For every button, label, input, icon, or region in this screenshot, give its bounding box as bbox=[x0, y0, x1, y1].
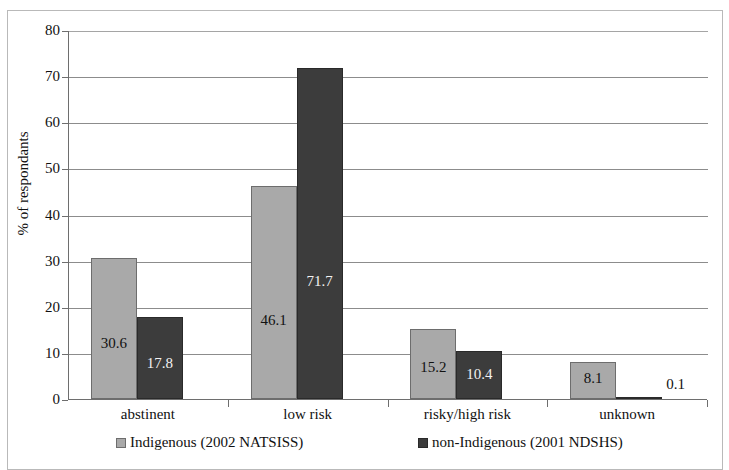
y-axis-tick-label: 60 bbox=[26, 114, 60, 131]
legend-entry[interactable]: non-Indigenous (2001 NDSHS) bbox=[418, 434, 623, 451]
y-axis-tick-label: 0 bbox=[26, 391, 60, 408]
legend-swatch-icon bbox=[116, 438, 126, 448]
x-axis-category-label: low risk bbox=[228, 406, 388, 423]
gridline bbox=[69, 169, 708, 170]
y-axis-tick-label: 30 bbox=[26, 253, 60, 270]
gridline bbox=[69, 262, 708, 263]
y-axis-tick-mark bbox=[62, 400, 68, 401]
y-axis-tick-label: 80 bbox=[26, 22, 60, 39]
x-axis-category-label: risky/high risk bbox=[388, 406, 548, 423]
bar bbox=[297, 68, 343, 399]
bar-value-label: 8.1 bbox=[570, 370, 616, 387]
bar-value-label: 15.2 bbox=[410, 359, 456, 376]
y-axis-tick-label: 10 bbox=[26, 345, 60, 362]
plot-area: 30.617.846.171.715.210.48.10.1 bbox=[68, 31, 707, 400]
x-axis-tick-mark bbox=[707, 400, 708, 407]
bar-value-label: 46.1 bbox=[251, 312, 297, 329]
y-axis-tick-label: 70 bbox=[26, 68, 60, 85]
x-axis-category-label: unknown bbox=[547, 406, 707, 423]
bar bbox=[616, 397, 662, 399]
bar bbox=[91, 258, 137, 399]
bar-value-label: 30.6 bbox=[91, 335, 137, 352]
y-axis-tick-label: 50 bbox=[26, 160, 60, 177]
bar bbox=[251, 186, 297, 399]
y-axis-tick-label: 20 bbox=[26, 299, 60, 316]
gridline bbox=[69, 308, 708, 309]
y-axis-tick-label: 40 bbox=[26, 207, 60, 224]
bar-value-label: 0.1 bbox=[666, 376, 712, 393]
legend-label: non-Indigenous (2001 NDSHS) bbox=[432, 434, 623, 451]
bar-value-label: 10.4 bbox=[456, 366, 502, 383]
gridline bbox=[69, 31, 708, 32]
legend-entry[interactable]: Indigenous (2002 NATSISS) bbox=[116, 434, 303, 451]
bar-value-label: 17.8 bbox=[137, 355, 183, 372]
gridline bbox=[69, 77, 708, 78]
bar-value-label: 71.7 bbox=[297, 273, 343, 290]
legend-swatch-icon bbox=[418, 438, 428, 448]
legend: Indigenous (2002 NATSISS)non-Indigenous … bbox=[68, 434, 707, 456]
gridline bbox=[69, 216, 708, 217]
x-axis-category-label: abstinent bbox=[68, 406, 228, 423]
gridline bbox=[69, 123, 708, 124]
legend-label: Indigenous (2002 NATSISS) bbox=[130, 434, 303, 451]
